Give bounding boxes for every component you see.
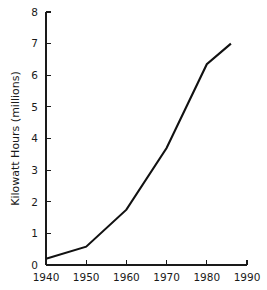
y-tick-label: 2 [31, 196, 38, 208]
x-tick-label: 1940 [33, 271, 60, 283]
y-tick-label: 6 [31, 69, 38, 81]
y-tick-label: 8 [31, 6, 38, 18]
data-series [46, 44, 231, 259]
y-tick-label: 3 [31, 164, 38, 176]
x-axis-ticks [46, 260, 247, 265]
y-axis-tick-labels: 012345678 [31, 6, 38, 271]
y-tick-label: 1 [31, 227, 38, 239]
line-chart: 012345678 194019501960197019801990 Kilow… [0, 0, 267, 290]
x-tick-label: 1970 [153, 271, 180, 283]
x-tick-label: 1990 [234, 271, 261, 283]
x-tick-label: 1950 [73, 271, 100, 283]
x-tick-label: 1960 [113, 271, 140, 283]
y-tick-label: 0 [31, 259, 38, 271]
y-tick-label: 4 [31, 132, 38, 144]
x-axis-tick-labels: 194019501960197019801990 [33, 271, 261, 283]
y-tick-label: 7 [31, 37, 38, 49]
x-tick-label: 1980 [193, 271, 220, 283]
data-line [46, 44, 231, 259]
axes [46, 12, 247, 265]
y-tick-label: 5 [31, 101, 38, 113]
y-axis-title: Kilowatt Hours (millions) [9, 71, 22, 206]
chart-container: 012345678 194019501960197019801990 Kilow… [0, 0, 267, 290]
y-axis-ticks [46, 12, 51, 265]
